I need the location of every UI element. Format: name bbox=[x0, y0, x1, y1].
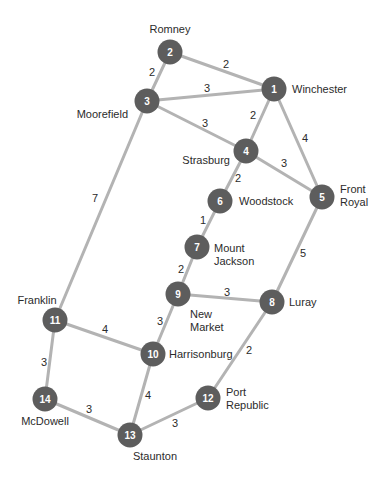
node-1: 1 bbox=[262, 77, 287, 102]
city-label: PortRepublic bbox=[226, 386, 269, 411]
city-label: Harrisonburg bbox=[169, 348, 233, 360]
edge-weight-label: 2 bbox=[246, 344, 252, 356]
edge-3-11 bbox=[55, 101, 147, 320]
node-4: 4 bbox=[234, 139, 259, 164]
city-label-line: Republic bbox=[226, 399, 269, 411]
node-13: 13 bbox=[118, 423, 143, 448]
node-10: 10 bbox=[141, 342, 166, 367]
city-label: Woodstock bbox=[239, 195, 294, 207]
edge-weight-label: 3 bbox=[204, 82, 210, 94]
city-label-line: Port bbox=[226, 386, 246, 398]
edge-weight-label: 4 bbox=[302, 132, 308, 144]
edge-weight-label: 3 bbox=[202, 117, 208, 129]
node-3: 3 bbox=[135, 89, 160, 114]
city-label-line: Franklin bbox=[17, 294, 56, 306]
edge-weight-label: 3 bbox=[224, 286, 230, 298]
city-label-line: Royal bbox=[340, 196, 368, 208]
node-14: 14 bbox=[33, 387, 58, 412]
city-label-line: Market bbox=[190, 321, 224, 333]
edge-weight-label: 2 bbox=[223, 58, 229, 70]
edge-weight-label: 3 bbox=[41, 356, 47, 368]
city-label-line: Jackson bbox=[214, 255, 254, 267]
city-label: Staunton bbox=[133, 450, 177, 462]
city-label: MountJackson bbox=[214, 242, 254, 267]
city-label-line: Woodstock bbox=[239, 195, 294, 207]
node-number: 11 bbox=[50, 315, 61, 326]
node-number: 6 bbox=[217, 196, 223, 207]
edge-weight-label: 2 bbox=[250, 109, 256, 121]
node-number: 13 bbox=[124, 430, 136, 441]
city-label-line: Harrisonburg bbox=[169, 348, 233, 360]
edge-weight-label: 4 bbox=[102, 323, 108, 335]
edge-weight-label: 7 bbox=[92, 192, 98, 204]
node-number: 5 bbox=[319, 192, 325, 203]
node-number: 2 bbox=[167, 47, 173, 58]
edge-weight-label: 3 bbox=[86, 403, 92, 415]
edge-weight-label: 1 bbox=[200, 214, 206, 226]
city-label: Luray bbox=[289, 296, 317, 308]
city-label-line: Front bbox=[340, 183, 366, 195]
city-label-line: Moorefield bbox=[77, 108, 128, 120]
node-number: 4 bbox=[243, 146, 249, 157]
node-number: 14 bbox=[39, 394, 51, 405]
node-8: 8 bbox=[260, 290, 285, 315]
weighted-graph: 23242373212533423433 1234567891011121314… bbox=[0, 0, 389, 483]
node-9: 9 bbox=[166, 282, 191, 307]
node-number: 12 bbox=[202, 393, 214, 404]
city-label: Franklin bbox=[17, 294, 56, 306]
node-number: 8 bbox=[269, 297, 275, 308]
city-label-line: New bbox=[190, 308, 212, 320]
city-label-line: Staunton bbox=[133, 450, 177, 462]
node-7: 7 bbox=[185, 235, 210, 260]
city-label: Moorefield bbox=[77, 108, 128, 120]
node-12: 12 bbox=[196, 386, 221, 411]
edge-1-3 bbox=[147, 89, 274, 101]
city-label-line: Romney bbox=[150, 23, 191, 35]
city-label: FrontRoyal bbox=[340, 183, 368, 208]
edge-13-12 bbox=[130, 398, 208, 435]
edge-weight-label: 2 bbox=[235, 172, 241, 184]
edge-weight-label: 3 bbox=[157, 315, 163, 327]
node-number: 3 bbox=[144, 96, 150, 107]
edge-weight-label: 2 bbox=[149, 66, 155, 78]
node-2: 2 bbox=[158, 40, 183, 65]
edge-weight-label: 2 bbox=[178, 263, 184, 275]
edge-weight-label: 3 bbox=[281, 157, 287, 169]
edge-weight-label: 4 bbox=[145, 389, 151, 401]
node-11: 11 bbox=[43, 308, 68, 333]
node-number: 10 bbox=[147, 349, 159, 360]
city-label-line: McDowell bbox=[21, 415, 69, 427]
node-6: 6 bbox=[208, 189, 233, 214]
city-label: Winchester bbox=[292, 83, 347, 95]
edge-weight-label: 3 bbox=[172, 417, 178, 429]
city-label-line: Winchester bbox=[292, 83, 347, 95]
nodes-layer: 1234567891011121314 bbox=[33, 40, 335, 448]
node-number: 1 bbox=[271, 84, 277, 95]
city-label: NewMarket bbox=[190, 308, 224, 333]
city-label: McDowell bbox=[21, 415, 69, 427]
node-5: 5 bbox=[310, 185, 335, 210]
city-label: Romney bbox=[150, 23, 191, 35]
node-number: 7 bbox=[194, 242, 200, 253]
city-label-line: Strasburg bbox=[182, 154, 230, 166]
edge-5-8 bbox=[272, 197, 322, 302]
city-label-line: Mount bbox=[214, 242, 245, 254]
edge-3-4 bbox=[147, 101, 246, 151]
edge-weight-label: 5 bbox=[300, 247, 306, 259]
city-label: Strasburg bbox=[182, 154, 230, 166]
city-label-line: Luray bbox=[289, 296, 317, 308]
node-number: 9 bbox=[175, 289, 181, 300]
